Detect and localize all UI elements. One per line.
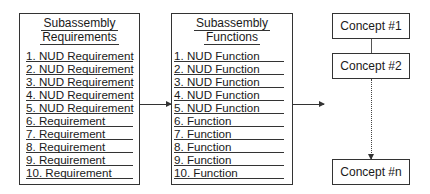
requirement-item: 4. NUD Requirement — [26, 88, 133, 101]
requirement-item: 3. NUD Requirement — [26, 75, 133, 88]
requirements-title-line2: Requirements — [20, 31, 139, 45]
function-item: 6. Function — [174, 114, 284, 127]
function-item: 1. NUD Function — [174, 49, 284, 62]
requirements-title-line1: Subassembly — [20, 17, 139, 31]
requirement-item: 5. NUD Requirement — [26, 101, 133, 114]
concept-2-box: Concept #2 — [332, 53, 410, 79]
concept-1-box: Concept #1 — [332, 13, 410, 39]
function-item: 9. Function — [174, 153, 284, 166]
connector-concept1-to-concept2 — [371, 39, 372, 54]
arrow-requirements-to-functions — [140, 104, 171, 105]
functions-title-line1: Subassembly — [172, 17, 292, 31]
function-item: 4. NUD Function — [174, 88, 284, 101]
function-item: 8. Function — [174, 140, 284, 153]
requirement-item: 8. Requirement — [26, 140, 133, 153]
function-item: 2. NUD Function — [174, 62, 284, 75]
dotted-arrow-to-concept-n — [371, 79, 372, 159]
requirement-item: 10. Requirement — [26, 166, 133, 179]
requirement-item: 9. Requirement — [26, 153, 133, 166]
requirements-list: 1. NUD Requirement 2. NUD Requirement 3.… — [26, 49, 133, 179]
requirement-item: 7. Requirement — [26, 127, 133, 140]
functions-title-line2: Functions — [172, 31, 292, 45]
requirement-item: 1. NUD Requirement — [26, 49, 133, 62]
function-item: 10. Function — [174, 166, 284, 179]
concept-n-box: Concept #n — [332, 159, 410, 185]
functions-box: Subassembly Functions 1. NUD Function 2.… — [171, 13, 293, 185]
function-item: 7. Function — [174, 127, 284, 140]
function-item: 5. NUD Function — [174, 101, 284, 114]
requirement-item: 6. Requirement — [26, 114, 133, 127]
requirement-item: 2. NUD Requirement — [26, 62, 133, 75]
functions-list: 1. NUD Function 2. NUD Function 3. NUD F… — [174, 49, 284, 179]
arrow-functions-to-concepts — [293, 104, 324, 105]
function-item: 3. NUD Function — [174, 75, 284, 88]
requirements-box: Subassembly Requirements 1. NUD Requirem… — [19, 13, 140, 185]
